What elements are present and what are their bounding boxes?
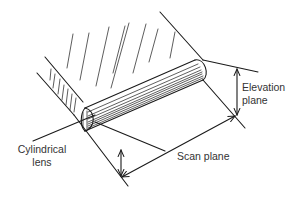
housing-top-hatching: [67, 23, 175, 88]
transducer-diagram: Elevation plane Scan plane Cylindrical l…: [0, 0, 296, 198]
scan-plane-label: Scan plane: [177, 150, 230, 162]
lens-leader-line: [33, 115, 95, 141]
scan-arrow: [122, 116, 235, 177]
lens-label-line2: lens: [32, 156, 51, 168]
elevation-label-line2: plane: [242, 94, 268, 106]
lens-label-line1: Cylindrical: [18, 143, 66, 155]
cylindrical-lens-body: [85, 60, 206, 131]
housing-side-hatching: [50, 69, 76, 112]
elevation-label-line1: Elevation: [242, 81, 285, 93]
